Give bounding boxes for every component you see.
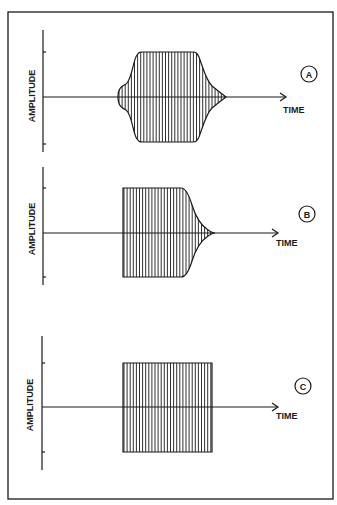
panel-a: TIME AMPLITUDE A — [27, 30, 317, 152]
x-axis-label-b: TIME — [276, 238, 298, 248]
panel-b: TIME AMPLITUDE B — [27, 167, 315, 285]
panel-c: TIME AMPLITUDE C — [25, 336, 311, 470]
envelope-diagram: TIME AMPLITUDE A TIME AMPLITUDE B TIME A… — [0, 0, 337, 505]
x-axis-label-a: TIME — [283, 105, 305, 115]
waveform-hatch-a — [119, 50, 224, 146]
panel-label-a: A — [306, 70, 313, 80]
panel-label-b: B — [304, 210, 311, 220]
y-axis-label-b: AMPLITUDE — [27, 203, 37, 256]
y-axis-label-c: AMPLITUDE — [25, 379, 35, 432]
panel-label-c: C — [300, 382, 307, 392]
x-axis-label-c: TIME — [276, 411, 298, 421]
y-axis-label-a: AMPLITUDE — [27, 70, 37, 123]
